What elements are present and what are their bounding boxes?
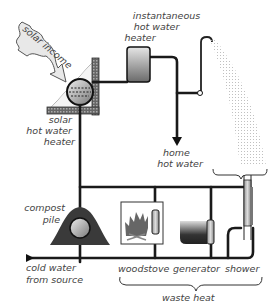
home-hot-water-arrow-icon — [172, 137, 182, 146]
valve-icon — [198, 91, 203, 96]
shower-brace — [213, 169, 267, 179]
shower-label: shower — [225, 263, 260, 274]
compost-pile-label: compost pile — [24, 202, 68, 225]
instantaneous-heater — [127, 47, 150, 82]
solar-heater-label: solar hot water heater — [26, 114, 76, 147]
cold-water-label: cold water from source — [26, 262, 83, 285]
generator — [180, 220, 214, 244]
woodstove — [121, 202, 163, 244]
waste-heat-label: waste heat — [162, 292, 216, 303]
solar-income-arrow: solar income — [16, 22, 74, 82]
cold-water-arrow-icon — [26, 254, 34, 262]
generator-label: generator — [173, 263, 221, 274]
shower-spray — [210, 38, 266, 165]
shower-heat-exchanger — [244, 175, 253, 240]
woodstove-label: woodstove — [118, 263, 170, 274]
waste-heat-brace — [120, 277, 262, 291]
water-system-diagram: solar income — [0, 0, 279, 306]
instantaneous-heater-label: instantaneous hot water heater — [124, 10, 203, 43]
home-hot-water-label: home hot water — [157, 147, 204, 169]
